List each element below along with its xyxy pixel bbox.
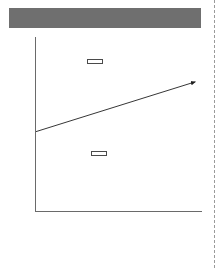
slide-page [0,0,215,268]
bar-group [36,37,202,211]
legend-callout-unpublished [87,59,103,64]
chart-plot-area [35,37,202,212]
page-title-banner [9,8,201,28]
stacked-bar-chart [3,33,208,231]
legend-callout-published [91,151,107,156]
